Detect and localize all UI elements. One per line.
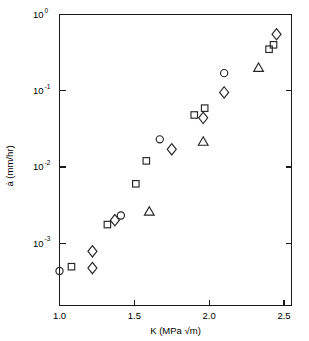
y-axis-ticks: [60, 91, 292, 243]
data-point-square: [143, 158, 149, 164]
svg-text:-2: -2: [45, 159, 51, 166]
data-point-diamond: [167, 144, 176, 155]
x-axis-ticks: [60, 300, 285, 306]
x-axis-title: K (MPa √m): [150, 325, 201, 336]
data-point-square: [133, 181, 139, 187]
svg-text:10: 10: [33, 85, 44, 96]
y-tick-label: 100: [33, 7, 49, 21]
data-point-diamond: [220, 87, 229, 98]
svg-text:-3: -3: [45, 235, 51, 242]
data-point-triangle: [144, 207, 154, 215]
y-axis-title-text: ȧ (mm/hr): [4, 145, 15, 186]
svg-text:10: 10: [33, 161, 44, 172]
data-point-square: [201, 105, 207, 111]
x-tick-label: 1.0: [53, 310, 66, 321]
data-point-circle: [221, 70, 228, 77]
data-point-square: [270, 42, 276, 48]
svg-text:0: 0: [45, 7, 49, 14]
x-axis-tick-labels: 1.01.52.02.5: [53, 310, 291, 321]
figure-container: 1.01.52.02.5 10010-110-210-3 K (MPa √m) …: [0, 0, 309, 341]
svg-text:10: 10: [33, 238, 44, 249]
y-axis-tick-labels: 10010-110-210-3: [33, 7, 51, 249]
data-point-triangle: [254, 63, 264, 71]
data-markers: [56, 29, 281, 275]
y-axis-title: ȧ (mm/hr): [4, 145, 15, 186]
y-tick-label: 10-3: [33, 235, 51, 249]
y-tick-label: 10-2: [33, 159, 51, 173]
x-tick-label: 1.5: [128, 310, 141, 321]
x-axis-title-text: K (MPa √m): [150, 325, 201, 336]
data-point-triangle: [198, 137, 208, 145]
data-point-diamond: [88, 246, 97, 257]
x-tick-label: 2.0: [203, 310, 216, 321]
data-point-circle: [156, 136, 163, 143]
x-tick-label: 2.5: [277, 310, 290, 321]
data-point-square: [68, 263, 74, 269]
y-tick-label: 10-1: [33, 83, 51, 97]
svg-text:-1: -1: [45, 83, 51, 90]
data-point-square: [104, 221, 110, 227]
data-point-square: [191, 112, 197, 118]
data-point-diamond: [110, 215, 119, 226]
scatter-plot: 1.01.52.02.5 10010-110-210-3 K (MPa √m) …: [0, 0, 309, 341]
data-point-diamond: [272, 29, 281, 40]
plot-frame: [60, 15, 292, 306]
data-point-diamond: [199, 112, 208, 123]
data-point-diamond: [88, 262, 97, 273]
svg-text:10: 10: [33, 9, 44, 20]
data-point-square: [266, 46, 272, 52]
plot-axes: [60, 15, 292, 306]
